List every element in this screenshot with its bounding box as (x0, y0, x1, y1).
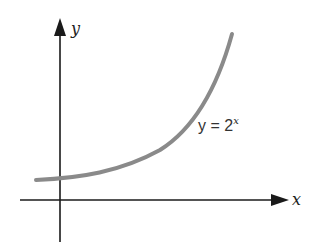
equation-exponent: x (233, 115, 239, 126)
x-axis-arrow-icon (271, 194, 289, 206)
exponential-curve (36, 34, 232, 180)
curve-equation-label: y = 2x (198, 115, 239, 134)
x-axis-label: x (292, 190, 301, 209)
y-axis-label: y (70, 19, 81, 38)
equation-base: y = 2 (198, 117, 233, 134)
y-axis-arrow-icon (54, 18, 66, 36)
exponential-graph: y x y = 2x (0, 0, 310, 244)
